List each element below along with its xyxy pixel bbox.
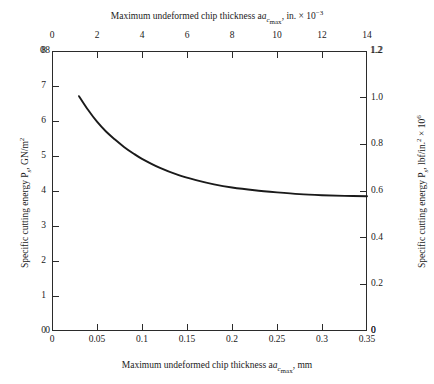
data-curve xyxy=(79,96,367,196)
chart-figure: Maximum undeformed chip thickness aacmax… xyxy=(0,0,434,384)
curve-svg xyxy=(0,0,434,384)
